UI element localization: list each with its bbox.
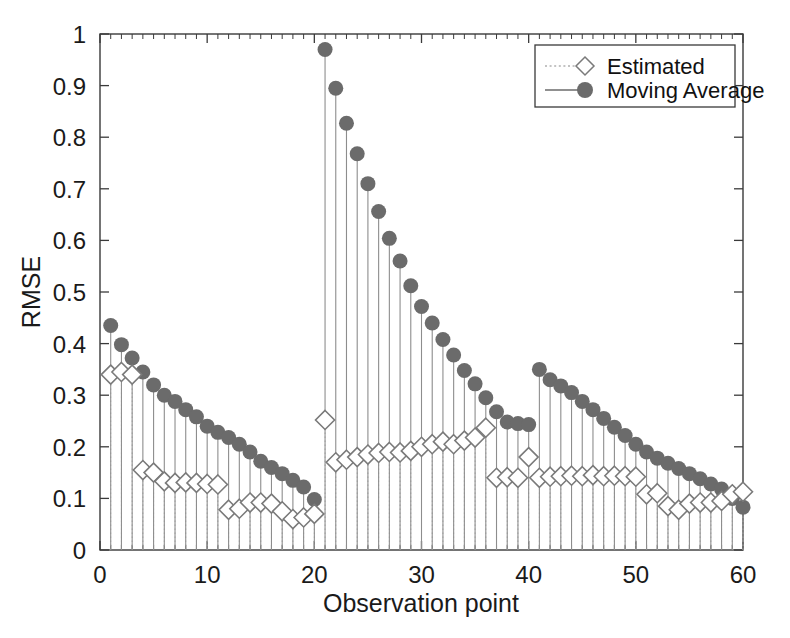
moving-average-point [393, 254, 408, 269]
moving-average-point [521, 417, 536, 432]
moving-average-point [446, 347, 461, 362]
estimated-markers [101, 362, 752, 528]
moving-average-point [478, 390, 493, 405]
moving-average-point [125, 351, 140, 366]
y-axis-title: RMSE [17, 256, 45, 328]
moving-average-stems [111, 49, 743, 550]
legend-label-estimated: Estimated [607, 54, 705, 79]
y-tick-label: 0.7 [53, 176, 86, 203]
y-tick-label: 0.4 [53, 331, 86, 358]
moving-average-point [371, 204, 386, 219]
x-tick-label: 0 [93, 561, 106, 588]
moving-average-point [414, 299, 429, 314]
y-tick-label: 1 [73, 21, 86, 48]
moving-average-point [339, 116, 354, 131]
moving-average-point [468, 376, 483, 391]
chart-figure: 00.10.20.30.40.50.60.70.80.91 0102030405… [0, 0, 790, 638]
y-tick-label: 0.1 [53, 485, 86, 512]
moving-average-point [328, 81, 343, 96]
moving-average-point [382, 231, 397, 246]
y-tick-label: 0.3 [53, 382, 86, 409]
moving-average-point [114, 337, 129, 352]
y-tick-label: 0 [73, 537, 86, 564]
estimated-point [316, 410, 335, 429]
x-axis-tick-labels: 0102030405060 [93, 561, 756, 588]
moving-average-point [103, 318, 118, 333]
x-tick-label: 60 [730, 561, 757, 588]
estimated-point [519, 448, 538, 467]
moving-average-point [435, 332, 450, 347]
legend-label-moving-average: Moving Average [607, 78, 764, 103]
x-tick-label: 50 [622, 561, 649, 588]
estimated-stems [111, 372, 743, 550]
moving-average-point [403, 278, 418, 293]
rmse-stem-plot: 00.10.20.30.40.50.60.70.80.91 0102030405… [0, 0, 790, 638]
moving-average-point [318, 42, 333, 57]
moving-average-point [425, 315, 440, 330]
x-axis-title: Observation point [323, 589, 519, 617]
y-tick-label: 0.5 [53, 279, 86, 306]
y-tick-label: 0.6 [53, 227, 86, 254]
y-tick-label: 0.8 [53, 124, 86, 151]
moving-average-point [296, 480, 311, 495]
y-axis-tick-labels: 00.10.20.30.40.50.60.70.80.91 [53, 21, 86, 564]
filled-circle-icon [577, 82, 593, 98]
moving-average-point [457, 363, 472, 378]
x-tick-label: 40 [515, 561, 542, 588]
moving-average-point [350, 146, 365, 161]
moving-average-point [360, 176, 375, 191]
y-tick-label: 0.2 [53, 434, 86, 461]
x-tick-label: 30 [408, 561, 435, 588]
y-tick-label: 0.9 [53, 73, 86, 100]
chart-legend: Estimated Moving Average [535, 45, 764, 107]
x-tick-label: 20 [301, 561, 328, 588]
x-tick-label: 10 [194, 561, 221, 588]
